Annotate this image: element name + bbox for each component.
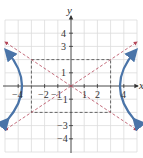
tick-x-neg2: −2 (38, 89, 49, 100)
tick-y-4: 4 (61, 28, 66, 39)
hyperbola-chart: −4 −2 −1 1 2 4 4 3 1 −1 −3 −4 y x (0, 0, 143, 158)
tick-y-neg4: −4 (57, 133, 68, 144)
y-axis-label: y (66, 4, 72, 16)
tick-y-1: 1 (61, 67, 66, 78)
tick-x-4: 4 (121, 89, 126, 100)
tick-x-1: 1 (82, 89, 87, 100)
x-axis-label: x (138, 79, 143, 91)
tick-y-3: 3 (61, 41, 66, 52)
tick-y-neg1: −1 (57, 94, 68, 105)
tick-y-neg3: −3 (57, 120, 68, 131)
tick-x-neg4: −4 (12, 89, 23, 100)
tick-x-2: 2 (95, 89, 100, 100)
